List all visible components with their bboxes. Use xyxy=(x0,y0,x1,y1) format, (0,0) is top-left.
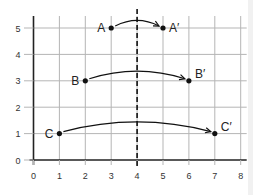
point-marker xyxy=(57,131,62,136)
y-tick-label: 4 xyxy=(15,50,20,60)
point-marker xyxy=(160,25,165,30)
point-marker xyxy=(83,78,88,83)
y-tick-label: 2 xyxy=(15,103,20,113)
tick-labels: 012345012345678 xyxy=(15,24,243,182)
x-tick-label: 1 xyxy=(57,171,62,181)
point-marker xyxy=(186,78,191,83)
x-tick-label: 2 xyxy=(83,171,88,181)
y-tick-label: 1 xyxy=(15,129,20,139)
point-label: C′ xyxy=(221,120,233,134)
point-label: B′ xyxy=(195,67,206,81)
x-tick-label: 0 xyxy=(31,171,36,181)
point-marker xyxy=(212,131,217,136)
point-marker xyxy=(109,25,114,30)
coordinate-grid: 012345012345678 AA′BB′CC′ xyxy=(0,0,253,195)
page-edge xyxy=(248,0,253,195)
y-tick-label: 5 xyxy=(15,24,20,34)
reflection-diagram: 012345012345678 AA′BB′CC′ xyxy=(0,0,253,195)
x-tick-label: 5 xyxy=(160,171,165,181)
x-tick-label: 7 xyxy=(212,171,217,181)
point-label: A xyxy=(97,21,105,35)
point-label: A′ xyxy=(169,21,180,35)
y-tick-label: 0 xyxy=(15,156,20,166)
point-label: C xyxy=(45,127,54,141)
x-tick-label: 4 xyxy=(135,171,140,181)
point-label: B xyxy=(71,74,79,88)
y-tick-label: 3 xyxy=(15,76,20,86)
x-tick-label: 6 xyxy=(186,171,191,181)
axes xyxy=(24,16,247,165)
grid-lines xyxy=(34,16,247,160)
x-tick-label: 8 xyxy=(238,171,243,181)
x-tick-label: 3 xyxy=(109,171,114,181)
